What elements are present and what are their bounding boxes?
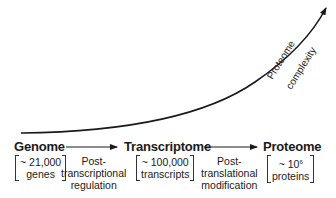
process-label-post-translational: Post- translational modification (201, 155, 258, 191)
process1-line2: transcriptional (61, 167, 126, 179)
proteome-unit: proteins (272, 170, 309, 182)
genome-count: ~ 21,000 (20, 156, 61, 168)
stage-count-proteome: ~ 106 proteins (267, 155, 314, 183)
proteome-count: ~ 106 (272, 156, 309, 170)
process2-line3: modification (201, 179, 258, 191)
transcriptome-count: ~ 100,000 (141, 156, 189, 168)
proteome-count-exponent: 6 (299, 159, 302, 165)
stage-count-genome: ~ 21,000 genes (15, 155, 66, 181)
process2-line1: Post- (201, 155, 258, 167)
proteome-count-base: ~ 10 (279, 158, 300, 170)
stage-title-transcriptome: Transcriptome (124, 139, 211, 154)
stage-title-genome: Genome (14, 139, 65, 154)
process-label-post-transcriptional: Post- transcriptional regulation (61, 155, 126, 191)
stage-title-proteome: Proteome (263, 139, 321, 154)
process1-line3: regulation (61, 179, 126, 191)
genome-unit: genes (20, 168, 61, 180)
stage-count-transcriptome: ~ 100,000 transcripts (136, 155, 194, 181)
proteome-complexity-diagram: Proteome complexity Genome ~ 21,000 gene… (0, 0, 336, 198)
process2-line2: translational (201, 167, 258, 179)
process1-line1: Post- (61, 155, 126, 167)
transcriptome-unit: transcripts (141, 168, 189, 180)
